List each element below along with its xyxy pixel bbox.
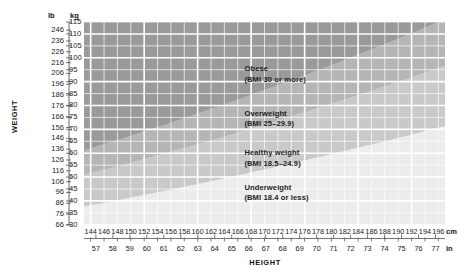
y-tick-lb: 166 [30, 112, 64, 121]
x-tick-in: 57 [92, 244, 100, 253]
x-axis-cm: 1441461481501521541561581601621641661681… [84, 227, 445, 237]
y-tick-lb: 206 [30, 68, 64, 77]
x-tick-cm: 160 [192, 227, 204, 236]
x-tick-in: 65 [228, 244, 236, 253]
x-tick-cm: 184 [352, 227, 364, 236]
band-label-obese-title: Obese [244, 64, 306, 75]
y-tick-lb: 66 [30, 220, 64, 229]
x-tick-cm: 178 [312, 227, 324, 236]
band-label-healthy-title: Healthy weight [244, 148, 300, 159]
x-axis-title: HEIGHT [0, 258, 458, 267]
x-tick-cm: 152 [138, 227, 150, 236]
y-tick-lb: 106 [30, 177, 64, 186]
x-tick-in: 77 [431, 244, 439, 253]
x-tick-in: 71 [330, 244, 338, 253]
y-tick-lb: 76 [30, 209, 64, 218]
x-tick-in: 58 [109, 244, 117, 253]
x-tick-cm: 146 [98, 227, 110, 236]
x-tick-cm: 172 [272, 227, 284, 236]
y-tick-lb: 136 [30, 144, 64, 153]
x-tick-in: 75 [397, 244, 405, 253]
band-label-obese-range: (BMI 30 or more) [244, 75, 306, 86]
y-axis-unit-lb: lb [48, 11, 55, 20]
x-tick-in: 70 [313, 244, 321, 253]
band-label-overweight-range: (BMI 25–29.9) [244, 119, 294, 130]
plot-area: Obese (BMI 30 or more) Overweight (BMI 2… [84, 22, 445, 225]
x-tick-cm: 144 [85, 227, 97, 236]
x-tick-cm: 162 [205, 227, 217, 236]
x-tick-cm: 168 [245, 227, 257, 236]
y-tick-lb: 156 [30, 123, 64, 132]
x-tick-cm: 190 [392, 227, 404, 236]
x-tick-cm: 150 [125, 227, 137, 236]
x-tick-in: 76 [414, 244, 422, 253]
y-axis-lb: 2462362262162061961861761661561461361261… [30, 22, 64, 225]
y-axis-title: WEIGHT [10, 87, 19, 147]
x-tick-cm: 164 [218, 227, 230, 236]
x-axis-unit-cm: cm [446, 227, 457, 236]
x-axis-in: 5758596061626364656667686970717273747576… [84, 244, 445, 254]
x-tick-cm: 148 [111, 227, 123, 236]
bmi-chart: lb kg 2462362262162061961861761661561461… [0, 0, 458, 272]
x-tick-cm: 188 [379, 227, 391, 236]
band-label-obese: Obese (BMI 30 or more) [244, 64, 306, 85]
y-tick-lb: 176 [30, 101, 64, 110]
y-tick-lb: 216 [30, 58, 64, 67]
x-tick-in: 67 [262, 244, 270, 253]
x-tick-in: 59 [126, 244, 134, 253]
x-tick-cm: 176 [299, 227, 311, 236]
band-label-healthy: Healthy weight (BMI 18.5–24.9) [244, 148, 300, 169]
x-tick-cm: 192 [405, 227, 417, 236]
band-label-underweight: Underweight (BMI 18.4 or less) [244, 183, 308, 204]
x-tick-cm: 180 [325, 227, 337, 236]
x-tick-in: 66 [245, 244, 253, 253]
x-tick-cm: 186 [365, 227, 377, 236]
x-tick-cm: 194 [419, 227, 431, 236]
x-tick-in: 72 [347, 244, 355, 253]
y-tick-lb: 86 [30, 198, 64, 207]
x-tick-in: 73 [364, 244, 372, 253]
x-tick-in: 62 [177, 244, 185, 253]
y-tick-lb: 186 [30, 90, 64, 99]
x-tick-cm: 182 [339, 227, 351, 236]
y-tick-lb: 236 [30, 36, 64, 45]
x-tick-cm: 156 [165, 227, 177, 236]
y-tick-lb: 126 [30, 155, 64, 164]
x-tick-cm: 154 [151, 227, 163, 236]
x-tick-cm: 170 [258, 227, 270, 236]
band-label-underweight-title: Underweight [244, 183, 308, 194]
x-tick-in: 69 [296, 244, 304, 253]
y-tick-lb: 96 [30, 187, 64, 196]
x-tick-in: 68 [279, 244, 287, 253]
x-tick-in: 61 [160, 244, 168, 253]
x-tick-in: 60 [143, 244, 151, 253]
band-label-overweight-title: Overweight [244, 109, 294, 120]
y-tick-lb: 246 [30, 25, 64, 34]
x-tick-in: 64 [211, 244, 219, 253]
x-tick-in: 74 [381, 244, 389, 253]
band-label-underweight-range: (BMI 18.4 or less) [244, 193, 308, 204]
x-tick-cm: 158 [178, 227, 190, 236]
y-tick-lb: 196 [30, 79, 64, 88]
band-label-healthy-range: (BMI 18.5–24.9) [244, 159, 300, 170]
band-label-overweight: Overweight (BMI 25–29.9) [244, 109, 294, 130]
x-tick-cm: 196 [432, 227, 444, 236]
x-axis-unit-in: in [446, 244, 453, 253]
x-tick-cm: 174 [285, 227, 297, 236]
y-tick-lb: 116 [30, 166, 64, 175]
y-tick-lb: 226 [30, 47, 64, 56]
y-tick-lb: 146 [30, 133, 64, 142]
x-tick-cm: 166 [232, 227, 244, 236]
x-tick-in: 63 [194, 244, 202, 253]
